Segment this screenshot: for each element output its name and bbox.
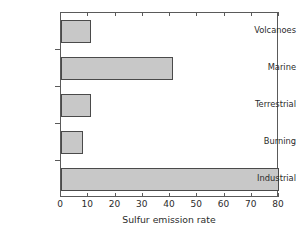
bar-terrestrial — [61, 94, 91, 116]
y-axis-tick — [55, 49, 60, 50]
x-axis-tick-bottom — [142, 193, 143, 197]
bar-volcanoes — [61, 20, 91, 42]
x-axis-tick-label: 80 — [263, 199, 293, 210]
x-axis-title: Sulfur emission rate — [60, 214, 278, 225]
x-axis-tick-label: 50 — [181, 199, 211, 210]
x-axis-tick-label: 0 — [45, 199, 75, 210]
x-axis-tick-label: 20 — [100, 199, 130, 210]
y-axis-tick — [55, 86, 60, 87]
bar-burning — [61, 131, 83, 153]
x-axis-tick-bottom — [87, 193, 88, 197]
x-axis-tick-top — [142, 12, 143, 16]
x-axis-tick-top — [115, 12, 116, 16]
y-axis-tick — [55, 123, 60, 124]
x-axis-tick-top — [169, 12, 170, 16]
x-axis-tick-bottom — [224, 193, 225, 197]
ycat-label-marine: Marine — [241, 63, 299, 72]
ycat-label-industrial: Industrial — [241, 174, 299, 183]
x-axis-tick-top — [224, 12, 225, 16]
x-axis-tick-top — [60, 12, 61, 16]
ycat-label-volcanoes: Volcanoes — [241, 26, 299, 35]
y-axis-tick — [55, 160, 60, 161]
ycat-label-burning: Burning — [241, 137, 299, 146]
x-axis-tick-label: 60 — [209, 199, 239, 210]
x-axis-tick-bottom — [115, 193, 116, 197]
x-axis-tick-label: 30 — [127, 199, 157, 210]
x-axis-tick-top — [251, 12, 252, 16]
x-axis-tick-label: 70 — [236, 199, 266, 210]
ycat-label-terrestrial: Terrestrial — [241, 100, 299, 109]
x-axis-tick-bottom — [60, 193, 61, 197]
x-axis-tick-bottom — [196, 193, 197, 197]
x-axis-tick-label: 40 — [154, 199, 184, 210]
x-axis-tick-bottom — [278, 193, 279, 197]
x-axis-tick-bottom — [251, 193, 252, 197]
x-axis-tick-top — [87, 12, 88, 16]
x-axis-tick-label: 10 — [72, 199, 102, 210]
x-axis-tick-top — [278, 12, 279, 16]
bar-marine — [61, 57, 173, 79]
x-axis-tick-top — [196, 12, 197, 16]
x-axis-tick-bottom — [169, 193, 170, 197]
sulfur-emission-bar-chart: Volcanoes Marine Terrestrial Burning Ind… — [0, 0, 299, 240]
caption-sliver — [8, 232, 291, 240]
